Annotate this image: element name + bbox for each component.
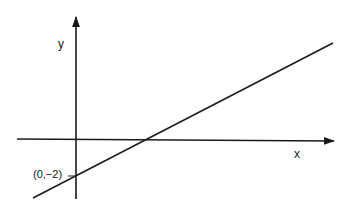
graph-line (33, 43, 333, 198)
y-axis-label: y (58, 38, 64, 50)
y-intercept-label: (0,−2) (33, 169, 62, 180)
graph-canvas: y x (0,−2) (0, 0, 348, 209)
x-axis-label: x (294, 148, 300, 160)
x-axis (17, 139, 334, 141)
